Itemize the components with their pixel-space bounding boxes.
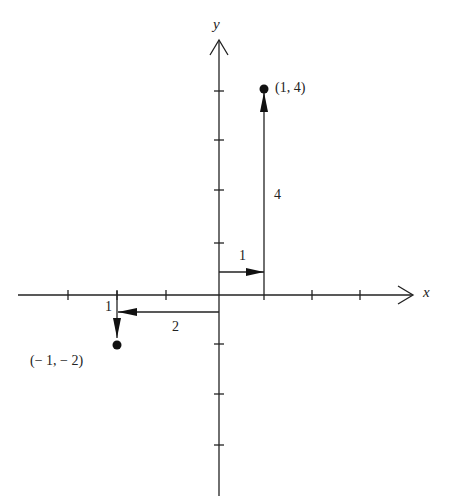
arrowhead-up-icon: [260, 92, 268, 112]
arrowhead-down-icon: [113, 318, 121, 338]
point-b-label: (− 1, − 2): [30, 354, 83, 368]
point-a-label: (1, 4): [275, 81, 305, 95]
arrowhead-left-icon: [118, 308, 137, 316]
point-a-dot: [260, 85, 269, 94]
step-up-label: 4: [274, 188, 281, 202]
arrowhead-right-icon: [246, 268, 264, 276]
x-axis-label: x: [423, 285, 430, 300]
path-to-point-a: [219, 92, 264, 300]
step-down-label: 1: [105, 300, 112, 314]
step-right-label: 1: [239, 249, 246, 263]
coordinate-diagram: y x (1, 4) (− 1, − 2) 1 4 2 1: [0, 0, 451, 496]
step-left-label: 2: [172, 320, 179, 334]
point-b-dot: [113, 341, 122, 350]
axes-svg: [0, 0, 451, 496]
y-axis-label: y: [213, 17, 220, 32]
